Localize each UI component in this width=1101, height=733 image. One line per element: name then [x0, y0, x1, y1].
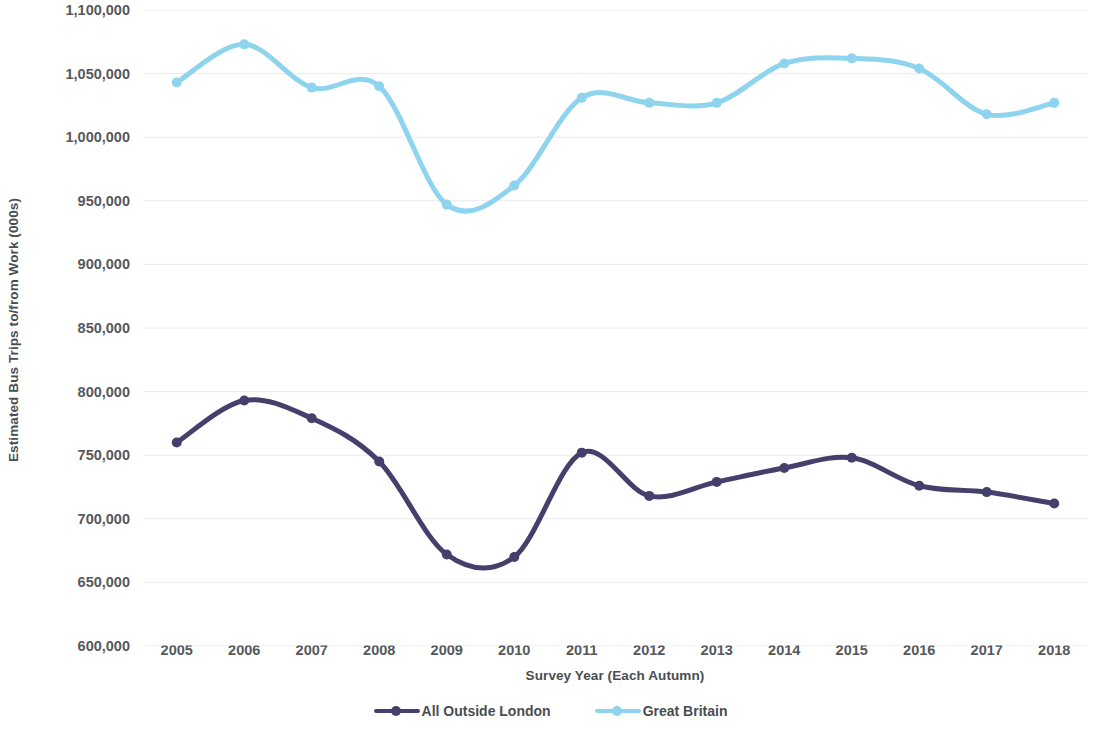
data-point-marker — [847, 453, 857, 463]
data-point-marker — [779, 58, 789, 68]
x-axis-title: Survey Year (Each Autumn) — [140, 668, 1090, 683]
bus-trips-line-chart: Estimated Bus Trips to/from Work (000s) … — [0, 0, 1101, 733]
data-point-marker — [847, 53, 857, 63]
data-point-marker — [712, 98, 722, 108]
data-point-marker — [1049, 98, 1059, 108]
series-all-outside-london — [172, 396, 1060, 569]
y-tick-label: 1,000,000 — [0, 129, 130, 145]
data-point-marker — [914, 64, 924, 74]
y-tick-label: 900,000 — [0, 256, 130, 272]
legend-item[interactable]: All Outside London — [374, 703, 551, 719]
legend-swatch-icon — [595, 704, 641, 718]
data-point-marker — [982, 109, 992, 119]
data-point-marker — [172, 437, 182, 447]
data-point-marker — [577, 448, 587, 458]
data-point-marker — [307, 413, 317, 423]
data-point-marker — [914, 481, 924, 491]
data-point-marker — [374, 81, 384, 91]
data-point-marker — [982, 487, 992, 497]
series-great-britain — [172, 39, 1060, 211]
chart-legend: All Outside LondonGreat Britain — [0, 703, 1101, 719]
data-point-marker — [509, 181, 519, 191]
data-point-marker — [577, 93, 587, 103]
data-point-marker — [307, 83, 317, 93]
y-tick-label: 700,000 — [0, 511, 130, 527]
data-point-marker — [442, 549, 452, 559]
data-point-marker — [239, 396, 249, 406]
data-point-marker — [442, 200, 452, 210]
data-point-marker — [374, 457, 384, 467]
data-point-marker — [779, 463, 789, 473]
data-point-marker — [644, 98, 654, 108]
data-point-marker — [1049, 499, 1059, 509]
data-point-marker — [644, 491, 654, 501]
data-point-marker — [172, 78, 182, 88]
data-point-marker — [239, 39, 249, 49]
y-axis-tick-labels: 600,000650,000700,000750,000800,000850,0… — [0, 0, 130, 733]
data-point-marker — [509, 552, 519, 562]
legend-label: Great Britain — [643, 703, 728, 719]
y-tick-label: 800,000 — [0, 384, 130, 400]
plot-area — [143, 10, 1088, 646]
y-tick-label: 1,100,000 — [0, 2, 130, 18]
y-tick-label: 650,000 — [0, 574, 130, 590]
y-tick-label: 600,000 — [0, 638, 130, 654]
data-point-marker — [712, 477, 722, 487]
legend-label: All Outside London — [422, 703, 551, 719]
y-tick-label: 950,000 — [0, 193, 130, 209]
y-tick-label: 850,000 — [0, 320, 130, 336]
legend-item[interactable]: Great Britain — [595, 703, 728, 719]
legend-swatch-icon — [374, 704, 420, 718]
y-tick-label: 750,000 — [0, 447, 130, 463]
y-tick-label: 1,050,000 — [0, 66, 130, 82]
